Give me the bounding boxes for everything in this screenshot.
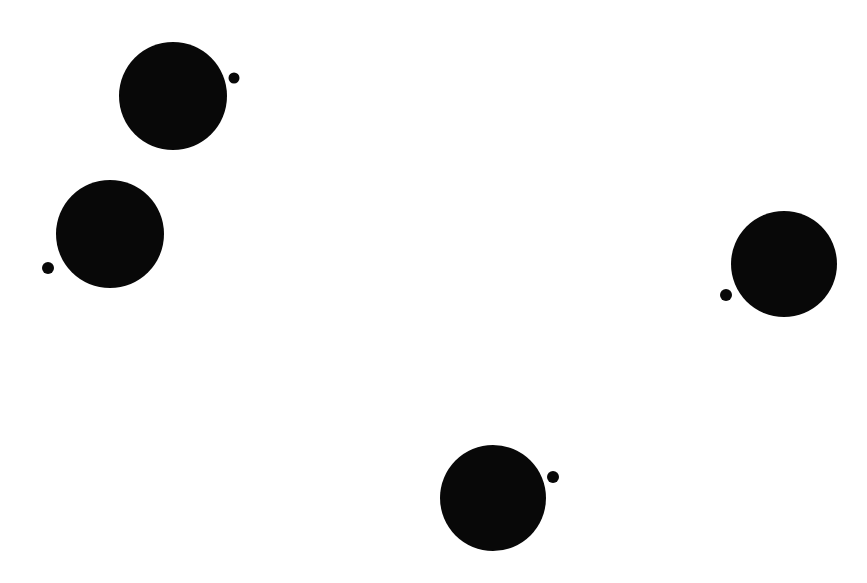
satellite-dot-right [720,289,732,301]
large-circle-left [56,180,164,288]
satellite-dot-bottom [547,471,559,483]
large-circle-bottom [440,445,546,551]
large-circle-top-left [119,42,227,150]
satellite-dot-top-left [229,73,240,84]
satellite-dot-left [42,262,54,274]
figure-canvas [0,0,867,583]
circle-scatter-figure [0,0,867,583]
large-circle-right [731,211,837,317]
